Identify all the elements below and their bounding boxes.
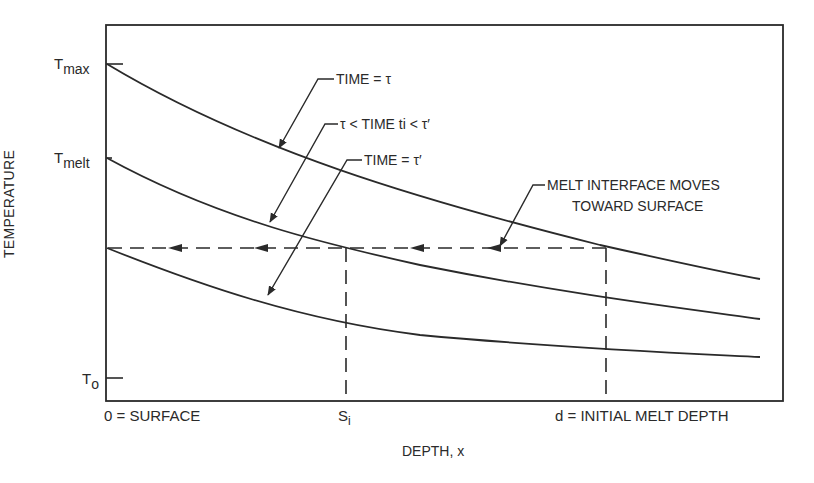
- arrow-left-icon: [410, 244, 424, 252]
- leader-time-between: [270, 124, 338, 222]
- annotation-line-2: TOWARD SURFACE: [572, 199, 703, 213]
- label-s-i: Si: [338, 408, 351, 423]
- arrow-left-icon: [168, 244, 182, 252]
- arrow-left-icon: [487, 244, 501, 252]
- t-o-main: T: [82, 370, 91, 387]
- label-initial-melt-depth: d = INITIAL MELT DEPTH: [555, 408, 729, 423]
- label-t-max: Tmax: [54, 56, 90, 71]
- label-time-tau-prime: TIME = τ′: [364, 153, 422, 167]
- t-melt-main: T: [54, 149, 63, 166]
- arrow-left-icon: [254, 244, 268, 252]
- annotation-line-1: MELT INTERFACE MOVES: [547, 178, 720, 192]
- t-o-sub: o: [91, 376, 99, 392]
- s-i-main: S: [338, 407, 348, 424]
- x-axis-label: DEPTH, x: [402, 444, 464, 458]
- curve-time-tau: [107, 64, 760, 279]
- y-axis-label: TEMPERATURE: [2, 150, 16, 258]
- leader-melt-interface: [500, 185, 545, 246]
- label-t-o: To: [82, 371, 99, 386]
- label-t-melt: Tmelt: [54, 150, 90, 165]
- t-melt-sub: melt: [63, 155, 89, 171]
- leader-time-tau-prime: [268, 160, 362, 295]
- leader-time-tau: [279, 79, 334, 148]
- label-surface: 0 = SURFACE: [104, 408, 200, 423]
- label-time-tau: TIME = τ: [336, 72, 391, 86]
- s-i-sub: i: [348, 414, 351, 428]
- label-time-between: τ < TIME ti < τ′: [340, 117, 430, 131]
- t-max-main: T: [54, 55, 63, 72]
- t-max-sub: max: [63, 61, 89, 77]
- curve-time-tau-prime: [107, 248, 760, 357]
